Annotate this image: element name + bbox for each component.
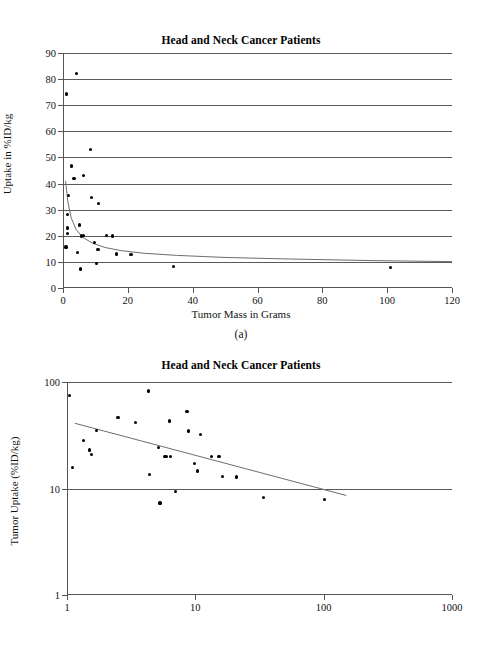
data-point <box>67 194 70 197</box>
data-point <box>210 455 213 458</box>
data-point <box>185 410 188 413</box>
gridline <box>67 382 452 383</box>
x-tick-label: 1 <box>64 602 69 613</box>
y-tick-label: 100 <box>44 377 60 388</box>
gridline <box>63 262 452 263</box>
x-tick-label: 100 <box>379 295 395 306</box>
x-tick-label: 60 <box>252 295 263 306</box>
data-point <box>88 448 91 451</box>
data-point <box>262 496 265 499</box>
data-point <box>111 234 114 237</box>
figure-panel-a: Head and Neck Cancer Patients 0102030405… <box>0 0 482 345</box>
y-tick <box>58 105 63 106</box>
data-point <box>193 462 196 465</box>
x-tick <box>63 288 64 293</box>
y-tick-label: 90 <box>46 48 57 59</box>
data-point <box>187 429 190 432</box>
x-tick-label: 10 <box>190 602 201 613</box>
x-tick <box>195 595 196 600</box>
y-tick <box>58 210 63 211</box>
chart-a-plot-area: 0102030405060708090 020406080100120 <box>63 53 452 288</box>
y-tick <box>58 184 63 185</box>
data-point <box>95 429 98 432</box>
data-point <box>95 262 98 265</box>
x-tick <box>67 595 68 600</box>
y-tick-label: 40 <box>46 178 57 189</box>
data-point <box>147 389 150 392</box>
y-tick <box>58 157 63 158</box>
data-point <box>389 266 392 269</box>
y-tick-label: 10 <box>46 256 57 267</box>
data-point <box>199 433 202 436</box>
y-tick-label: 0 <box>51 283 56 294</box>
chart-a-y-axis-label: Uptake in %ID/kg <box>1 114 13 195</box>
data-point <box>72 177 75 180</box>
x-tick-label: 100 <box>316 602 332 613</box>
data-point <box>115 252 118 255</box>
gridline <box>63 157 452 158</box>
figure-caption-a: (a) <box>0 328 482 340</box>
data-point <box>71 466 74 469</box>
x-tick <box>193 288 194 293</box>
data-point <box>217 455 220 458</box>
x-tick <box>387 288 388 293</box>
data-point <box>80 234 83 237</box>
data-point <box>93 241 96 244</box>
x-tick-label: 120 <box>444 295 460 306</box>
gridline <box>63 53 452 54</box>
data-point <box>134 421 137 424</box>
y-tick-label: 60 <box>46 126 57 137</box>
x-tick <box>322 288 323 293</box>
chart-a-fit-curve <box>63 53 452 288</box>
y-tick-label: 10 <box>50 483 61 494</box>
gridline <box>63 184 452 185</box>
x-tick-label: 40 <box>187 295 198 306</box>
chart-b-plot-area: 110100 1101001000 <box>67 382 452 595</box>
data-point <box>97 202 100 205</box>
x-tick-label: 20 <box>123 295 134 306</box>
y-tick <box>62 382 67 383</box>
data-point <box>65 92 68 95</box>
data-point <box>174 490 177 493</box>
gridline <box>63 79 452 80</box>
data-point <box>196 469 199 472</box>
data-point <box>66 213 69 216</box>
data-point <box>165 455 168 458</box>
y-tick <box>58 53 63 54</box>
x-tick <box>258 288 259 293</box>
data-point <box>68 394 71 397</box>
data-point <box>158 501 161 504</box>
gridline <box>63 210 452 211</box>
data-point <box>82 439 85 442</box>
data-point <box>116 416 119 419</box>
x-tick-label: 1000 <box>442 602 463 613</box>
y-tick <box>58 131 63 132</box>
y-tick-label: 30 <box>46 204 57 215</box>
y-tick-label: 1 <box>55 590 60 601</box>
gridline <box>63 131 452 132</box>
data-point <box>64 245 67 248</box>
data-point <box>79 267 82 270</box>
data-point <box>70 164 73 167</box>
y-tick-label: 80 <box>46 74 57 85</box>
data-point <box>105 234 108 237</box>
data-point <box>148 473 151 476</box>
y-tick-label: 70 <box>46 100 57 111</box>
y-tick-label: 50 <box>46 152 57 163</box>
data-point <box>75 72 78 75</box>
y-tick <box>58 79 63 80</box>
data-point <box>168 419 171 422</box>
data-point <box>76 251 79 254</box>
x-tick-label: 80 <box>317 295 328 306</box>
data-point <box>90 453 93 456</box>
chart-a-x-axis-label: Tumor Mass in Grams <box>0 308 482 320</box>
data-point <box>96 248 99 251</box>
data-point <box>90 196 93 199</box>
data-point <box>221 475 224 478</box>
chart-a-y-axis <box>63 53 64 288</box>
y-tick <box>58 262 63 263</box>
chart-b-y-axis-label: Tumor Uptake (%ID/kg) <box>8 437 20 546</box>
x-tick <box>324 595 325 600</box>
x-tick <box>452 595 453 600</box>
data-point <box>78 223 81 226</box>
